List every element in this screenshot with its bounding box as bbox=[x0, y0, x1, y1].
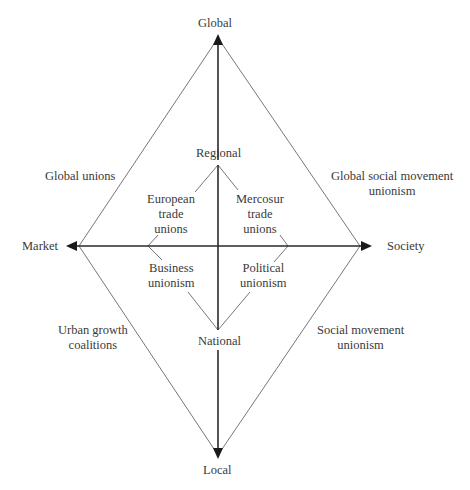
label-business-unionism: Business unionism bbox=[148, 261, 195, 291]
label-national: National bbox=[198, 334, 241, 349]
label-social-movement-unionism: Social movement unionism bbox=[317, 323, 404, 353]
label-urban-growth-coalitions: Urban growth coalitions bbox=[58, 323, 128, 353]
arrow-right-icon bbox=[361, 241, 372, 251]
label-mercosur-trade-unions: Mercosur trade unions bbox=[236, 192, 284, 237]
arrow-down-icon bbox=[213, 448, 223, 459]
label-local: Local bbox=[203, 463, 231, 478]
label-regional: Regional bbox=[196, 146, 241, 161]
label-european-trade-unions: European trade unions bbox=[147, 192, 195, 237]
label-global-unions: Global unions bbox=[45, 169, 115, 184]
label-political-unionism: Political unionism bbox=[240, 261, 287, 291]
label-global: Global bbox=[198, 16, 232, 31]
label-market: Market bbox=[22, 239, 58, 254]
arrow-up-icon bbox=[213, 34, 223, 45]
arrow-left-icon bbox=[66, 241, 77, 251]
label-society: Society bbox=[387, 239, 425, 254]
label-global-social-movement-unionism: Global social movement unionism bbox=[331, 169, 453, 199]
